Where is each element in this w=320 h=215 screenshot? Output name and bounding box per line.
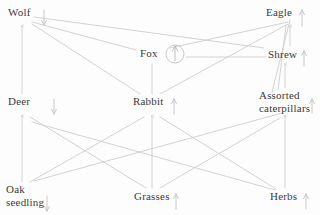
node-rabbit[interactable]: Rabbit (133, 95, 164, 107)
arrow-glyph-herbs (304, 194, 309, 209)
edge-oak-to-rabbit (30, 117, 144, 182)
food-web-diagram: Wolf Eagle Fox Shrew Deer Rabbit Assorte… (0, 0, 320, 215)
edge-fox-to-eagle (170, 22, 288, 48)
node-shrew[interactable]: Shrew (268, 48, 297, 60)
node-wolf[interactable]: Wolf (8, 6, 31, 18)
highlight-group (166, 45, 184, 63)
edge-fox-to-wolf (32, 22, 136, 50)
edge-shrew-to-wolf (34, 17, 264, 48)
arrow-glyph-shrew (302, 51, 307, 66)
arrow-glyph-oak (45, 196, 50, 211)
node-grasses[interactable]: Grasses (134, 190, 170, 202)
edge-rabbit-to-wolf (32, 24, 140, 94)
node-oak-seedling[interactable]: Oak seedling (6, 183, 44, 208)
node-deer[interactable]: Deer (8, 95, 30, 107)
arrow-glyph-eagle (300, 10, 305, 26)
edge-oak-to-caterpillars (34, 113, 282, 181)
arrow-glyph-deer (52, 99, 57, 114)
node-assorted-caterpillars[interactable]: Assorted caterpillars (259, 89, 310, 114)
arrow-glyph-caterpillars (310, 99, 315, 113)
arrow-glyph-wolf (42, 10, 47, 25)
edge-herbs-to-deer (32, 122, 275, 190)
arrow-glyph-grasses (174, 194, 179, 209)
node-eagle[interactable]: Eagle (266, 6, 292, 18)
arrow-glyph-rabbit (172, 99, 177, 114)
node-fox[interactable]: Fox (140, 47, 158, 59)
node-herbs[interactable]: Herbs (270, 190, 297, 202)
